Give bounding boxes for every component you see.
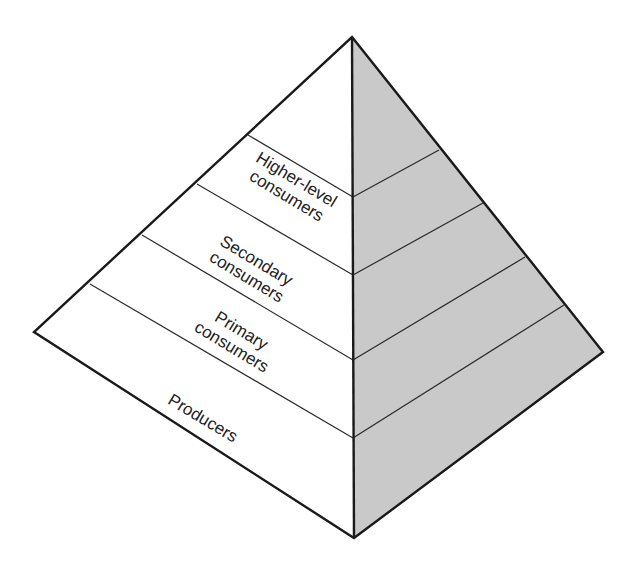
- pyramid-right-face: [352, 37, 603, 538]
- trophic-pyramid: Higher-level consumers Secondary consume…: [0, 0, 636, 569]
